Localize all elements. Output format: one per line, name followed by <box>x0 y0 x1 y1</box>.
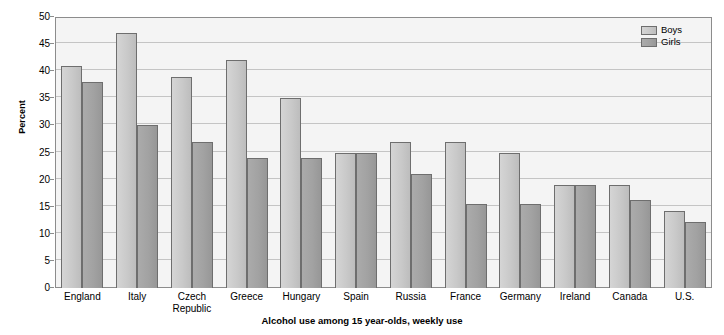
y-tick-mark <box>49 97 54 98</box>
bar-group <box>493 17 548 288</box>
y-tick-label: 5 <box>4 256 50 266</box>
bar-boys[interactable] <box>499 153 520 289</box>
legend-item-girls[interactable]: Girls <box>641 37 682 47</box>
x-tick-label: France <box>438 291 493 314</box>
bar-girls[interactable] <box>630 200 651 288</box>
legend-label-boys: Boys <box>661 25 682 35</box>
bar-girls[interactable] <box>466 204 487 288</box>
y-tick-mark <box>49 233 54 234</box>
y-tick-mark <box>49 206 54 207</box>
bar-group <box>219 17 274 288</box>
bar-girls[interactable] <box>411 174 432 288</box>
y-tick-label: 50 <box>4 12 50 22</box>
bar-group <box>438 17 493 288</box>
y-tick-label: 15 <box>4 202 50 212</box>
y-tick-label: 30 <box>4 120 50 130</box>
bar-group <box>657 17 712 288</box>
bar-group <box>110 17 165 288</box>
y-tick-label: 25 <box>4 148 50 158</box>
bar-girls[interactable] <box>685 222 706 288</box>
y-tick-mark <box>49 179 54 180</box>
bar-girls[interactable] <box>356 153 377 289</box>
bar-boys[interactable] <box>280 98 301 288</box>
y-axis-ticks: 05101520253035404550 <box>0 17 50 288</box>
bar-group <box>55 17 110 288</box>
y-tick-mark <box>49 260 54 261</box>
bar-group <box>329 17 384 288</box>
bar-boys[interactable] <box>445 142 466 288</box>
bar-group <box>548 17 603 288</box>
y-tick-mark <box>49 70 54 71</box>
x-tick-label: Hungary <box>274 291 329 314</box>
y-tick-label: 40 <box>4 66 50 76</box>
bar-girls[interactable] <box>247 158 268 288</box>
bar-boys[interactable] <box>664 211 685 289</box>
x-tick-label: Spain <box>329 291 384 314</box>
bar-girls[interactable] <box>520 204 541 288</box>
legend-item-boys[interactable]: Boys <box>641 25 682 35</box>
bar-boys[interactable] <box>171 77 192 288</box>
x-tick-label: England <box>55 291 110 314</box>
x-tick-label: Greece <box>219 291 274 314</box>
y-tick-label: 45 <box>4 39 50 49</box>
bar-girls[interactable] <box>137 125 158 288</box>
y-tick-mark <box>49 16 54 17</box>
bar-group <box>384 17 439 288</box>
x-tick-label: U.S. <box>657 291 712 314</box>
bar-groups <box>55 17 712 288</box>
legend-swatch-boys-icon <box>641 26 657 35</box>
y-tick-label: 10 <box>4 229 50 239</box>
y-tick-label: 0 <box>4 283 50 293</box>
bar-boys[interactable] <box>390 142 411 288</box>
y-tick-label: 35 <box>4 93 50 103</box>
x-axis-labels: EnglandItalyCzechRepublicGreeceHungarySp… <box>55 291 712 314</box>
legend-swatch-girls-icon <box>641 38 657 47</box>
bar-girls[interactable] <box>575 185 596 288</box>
bar-boys[interactable] <box>609 185 630 288</box>
bar-boys[interactable] <box>554 185 575 288</box>
bar-boys[interactable] <box>61 66 82 288</box>
x-tick-label: Ireland <box>548 291 603 314</box>
x-tick-label: Italy <box>110 291 165 314</box>
y-tick-label: 20 <box>4 175 50 185</box>
y-tick-mark <box>49 43 54 44</box>
bar-group <box>165 17 220 288</box>
y-tick-mark <box>49 152 54 153</box>
y-tick-mark <box>49 124 54 125</box>
bar-group <box>274 17 329 288</box>
x-axis-title: Alcohol use among 15 year-olds, weekly u… <box>0 315 724 326</box>
bar-girls[interactable] <box>301 158 322 288</box>
y-tick-mark <box>49 287 54 288</box>
bar-group <box>603 17 658 288</box>
bar-girls[interactable] <box>192 142 213 288</box>
bar-boys[interactable] <box>335 153 356 289</box>
legend-label-girls: Girls <box>661 37 681 47</box>
x-tick-label: CzechRepublic <box>165 291 220 314</box>
legend: Boys Girls <box>641 25 682 47</box>
bar-chart: Percent 05101520253035404550 EnglandItal… <box>0 0 724 335</box>
x-tick-label: Canada <box>603 291 658 314</box>
x-tick-label: Russia <box>384 291 439 314</box>
bar-boys[interactable] <box>116 33 137 288</box>
bar-girls[interactable] <box>82 82 103 288</box>
x-tick-label: Germany <box>493 291 548 314</box>
bar-boys[interactable] <box>226 60 247 288</box>
